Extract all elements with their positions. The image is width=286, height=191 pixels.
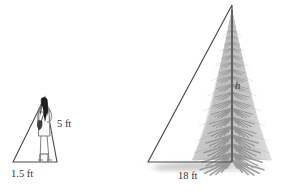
similar-triangles-figure: 5 ft 1.5 ft h 18 ft: [0, 0, 286, 191]
tree-group: [140, 5, 272, 175]
person-figure: [37, 97, 52, 160]
person-shadow-length-label: 1.5 ft: [11, 168, 33, 179]
tree-height-label: h: [235, 80, 240, 91]
person-height-label: 5 ft: [57, 118, 71, 129]
figure-canvas: [0, 0, 286, 191]
person-group: [13, 97, 57, 162]
tree-shadow-length-label: 18 ft: [178, 170, 198, 181]
person-triangle: [13, 97, 57, 162]
right-angle-marker: [40, 154, 48, 162]
person-triangle-outline: [13, 97, 57, 162]
